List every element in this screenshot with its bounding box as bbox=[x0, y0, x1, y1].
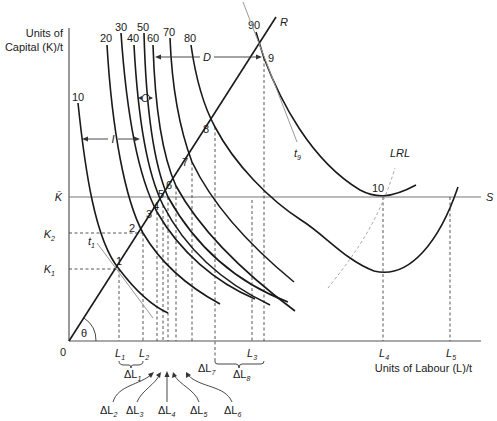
l4-label: L4 bbox=[379, 347, 389, 361]
point-5: 5 bbox=[158, 188, 164, 200]
tangent-t9 bbox=[243, 2, 297, 142]
delta-l2-label: ΔL2 bbox=[100, 404, 117, 418]
region-c-marker: C bbox=[138, 92, 153, 104]
delta-l1-label: ΔL1 bbox=[124, 368, 141, 382]
l3-label: L3 bbox=[247, 347, 257, 361]
isoquant-label-40: 40 bbox=[127, 32, 139, 44]
isoquant-70 bbox=[170, 38, 294, 282]
isoquant-curves bbox=[78, 32, 458, 313]
isoquant-label-20: 20 bbox=[100, 32, 112, 44]
k1-label: K1 bbox=[44, 263, 55, 277]
lrl-label: LRL bbox=[390, 147, 410, 159]
tangent-t9-label: t9 bbox=[294, 147, 301, 161]
delta-l7-label: ΔL7 bbox=[198, 362, 216, 376]
capital-limit-label: K̄ bbox=[55, 191, 63, 203]
l5-label: L5 bbox=[446, 347, 456, 361]
isoquant-label-70: 70 bbox=[163, 26, 175, 38]
point-7: 7 bbox=[182, 156, 188, 168]
svg-text:C: C bbox=[141, 92, 149, 104]
delta-l8-label: ΔL8 bbox=[233, 368, 250, 382]
y-axis-label-line1: Units of bbox=[26, 27, 64, 39]
point-2: 2 bbox=[129, 222, 135, 234]
point-8: 8 bbox=[203, 123, 209, 135]
region-i-marker: I bbox=[82, 133, 140, 145]
y-axis-label-line2: Capital (K)/t bbox=[5, 41, 63, 53]
isoquant-80 bbox=[191, 45, 458, 272]
theta-label: θ bbox=[81, 327, 87, 339]
point-1: 1 bbox=[116, 255, 122, 267]
x-axis-label: Units of Labour (L)/t bbox=[375, 362, 472, 374]
lrl-curve bbox=[328, 168, 395, 288]
capital-limit-line-label: S bbox=[486, 191, 494, 203]
isoquant-20 bbox=[107, 45, 220, 304]
delta-l4-label: ΔL4 bbox=[158, 404, 175, 418]
isoquant-diagram: Units of Capital (K)/t Units of Labour (… bbox=[0, 0, 497, 421]
origin-label: 0 bbox=[60, 346, 66, 358]
point-10: 10 bbox=[372, 182, 384, 194]
isoquant-label-10: 10 bbox=[72, 91, 84, 103]
isoquant-label-60: 60 bbox=[147, 32, 159, 44]
brace-delta-l8 bbox=[215, 361, 264, 368]
l1-label: L1 bbox=[115, 347, 125, 361]
l2-label: L2 bbox=[139, 347, 149, 361]
delta-l3-label: ΔL3 bbox=[126, 404, 143, 418]
svg-text:I: I bbox=[111, 133, 114, 145]
k2-label: K2 bbox=[44, 228, 55, 242]
ray-label: R bbox=[280, 16, 288, 28]
isoquant-50 bbox=[144, 33, 288, 302]
delta-l5-label: ΔL5 bbox=[190, 404, 207, 418]
point-3: 3 bbox=[146, 208, 152, 220]
isoquant-label-30: 30 bbox=[115, 21, 127, 33]
brace-delta-l1 bbox=[119, 361, 143, 368]
isoquant-label-80: 80 bbox=[184, 32, 196, 44]
point-4: 4 bbox=[153, 200, 159, 212]
isoquant-90 bbox=[256, 32, 416, 196]
tangent-t1-label: t1 bbox=[88, 235, 95, 249]
point-6: 6 bbox=[166, 179, 172, 191]
svg-text:D: D bbox=[203, 51, 211, 63]
delta-l6-label: ΔL6 bbox=[224, 404, 241, 418]
point-9: 9 bbox=[268, 52, 274, 64]
